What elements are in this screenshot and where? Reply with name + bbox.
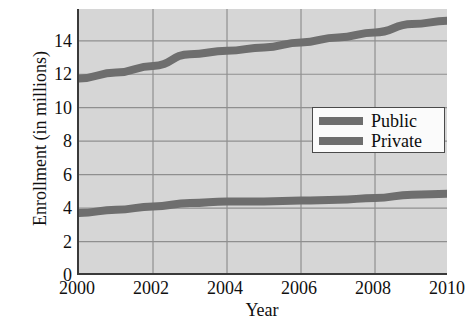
legend-item-public: Public: [313, 111, 444, 131]
y-tick-label-6: 6: [40, 166, 72, 184]
x-tick-label-2002: 2002: [121, 278, 181, 298]
y-tick-label-4: 4: [40, 199, 72, 217]
legend-label-private: Private: [371, 132, 422, 150]
chart-legend: Public Private: [312, 107, 445, 153]
x-tick-label-2010: 2010: [417, 278, 473, 298]
legend-label-public: Public: [371, 112, 417, 130]
x-tick-label-2000: 2000: [47, 278, 107, 298]
legend-swatch-private: [319, 137, 363, 145]
y-tick-label-2: 2: [40, 233, 72, 251]
x-axis-title: Year: [77, 300, 447, 321]
legend-item-private: Private: [313, 131, 444, 151]
x-tick-label-2004: 2004: [195, 278, 255, 298]
legend-swatch-public: [319, 117, 363, 125]
y-tick-label-12: 12: [40, 65, 72, 83]
y-tick-label-8: 8: [40, 132, 72, 150]
enrollment-line-chart: Enrollment (in millions) 02468101214 200…: [0, 0, 473, 327]
x-tick-label-2008: 2008: [343, 278, 403, 298]
y-tick-label-14: 14: [40, 32, 72, 50]
x-tick-label-2006: 2006: [269, 278, 329, 298]
y-tick-label-10: 10: [40, 99, 72, 117]
